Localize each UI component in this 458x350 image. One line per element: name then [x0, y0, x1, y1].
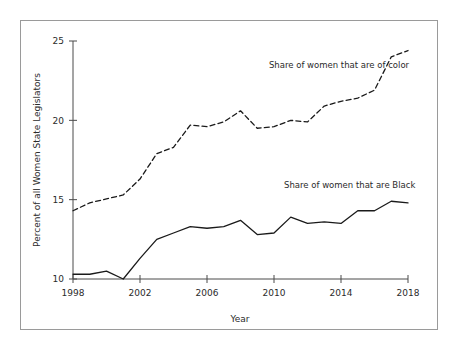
x-tick-label: 1998	[62, 288, 85, 298]
annotation-of-color: Share of women that are of color	[269, 60, 410, 70]
chart-figure: 10152025 199820022006201020142018 Share …	[0, 0, 458, 350]
x-axis-ticks: 199820022006201020142018	[62, 275, 420, 298]
x-tick-label: 2006	[196, 288, 219, 298]
x-tick-label: 2014	[330, 288, 353, 298]
annotation-black: Share of women that are Black	[284, 180, 415, 190]
y-axis-title: Percent of all Women State Legislators	[32, 73, 42, 247]
y-tick-label: 15	[53, 195, 64, 205]
y-tick-label: 20	[53, 116, 65, 126]
y-tick-label: 10	[53, 274, 65, 284]
x-axis-title: Year	[229, 314, 249, 324]
x-tick-label: 2010	[263, 288, 286, 298]
series-line-black	[73, 201, 408, 279]
y-tick-label: 25	[53, 36, 64, 46]
x-tick-label: 2002	[129, 288, 152, 298]
line-chart: 10152025 199820022006201020142018 Share …	[0, 0, 458, 350]
x-tick-label: 2018	[397, 288, 420, 298]
